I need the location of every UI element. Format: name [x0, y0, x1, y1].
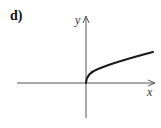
x-axis-label: x — [146, 85, 153, 99]
y-axis — [83, 16, 89, 118]
y-axis-label: y — [74, 13, 81, 27]
sqrt-curve — [86, 52, 153, 83]
chart-plot: x y — [0, 0, 161, 128]
